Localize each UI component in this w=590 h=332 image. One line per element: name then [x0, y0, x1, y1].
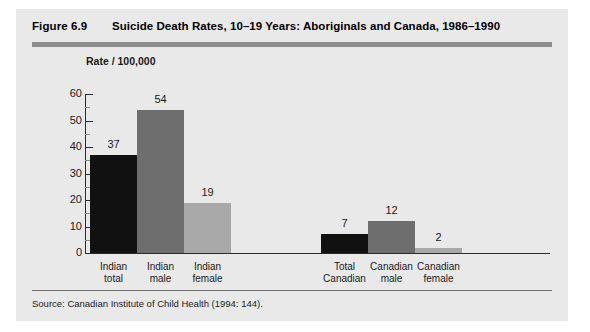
bar	[184, 203, 231, 253]
bar-value-label: 37	[90, 138, 137, 150]
x-axis-category-label-line: Canadian	[407, 261, 470, 273]
bar	[321, 234, 368, 253]
x-axis-category-label-line: female	[176, 273, 239, 285]
x-axis-category-label: Indianfemale	[176, 261, 239, 285]
figure-panel: Figure 6.9 Suicide Death Rates, 10–19 Ye…	[16, 9, 568, 321]
figure-title: Suicide Death Rates, 10–19 Years: Aborig…	[112, 20, 500, 32]
footer-divider	[32, 290, 552, 291]
bar-value-label: 19	[184, 186, 231, 198]
bar-value-label: 54	[137, 93, 184, 105]
x-axis-category-label: Canadianfemale	[407, 261, 470, 285]
bar-value-label: 2	[415, 231, 462, 243]
x-axis-category-label-line: female	[407, 273, 470, 285]
bar	[415, 248, 462, 253]
bar	[368, 221, 415, 253]
bar-value-label: 7	[321, 217, 368, 229]
bars-layer: 37Indiantotal54Indianmale19Indianfemale7…	[16, 47, 568, 285]
figure-number: Figure 6.9	[32, 20, 87, 32]
figure-header: Figure 6.9 Suicide Death Rates, 10–19 Ye…	[16, 9, 568, 47]
bar	[137, 110, 184, 253]
bar	[90, 155, 137, 253]
source-note: Source: Canadian Institute of Child Heal…	[32, 298, 263, 309]
bar-value-label: 12	[368, 204, 415, 216]
chart-plot-area: Rate / 100,000 0102030405060 37Indiantot…	[16, 47, 568, 285]
x-axis-category-label-line: Indian	[176, 261, 239, 273]
